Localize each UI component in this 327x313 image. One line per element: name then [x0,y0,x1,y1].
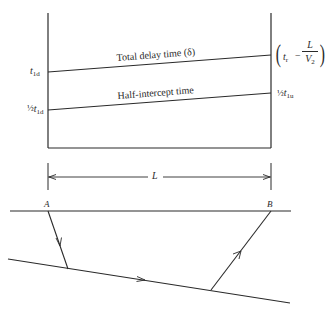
open-paren: ( [276,41,281,67]
minus-sign: − [295,51,301,61]
point-b-label: B [267,200,273,209]
close-paren: ) [320,41,325,67]
left-top-label: t1d [30,66,40,78]
tr-term: tr [283,52,288,64]
point-a-label: A [44,200,50,209]
downgoing-ray [48,211,68,269]
left-bottom-label: ½t1d [27,104,44,116]
l-over-v2-fraction: L V2 [302,39,318,66]
right-bottom-label: ½t1u [277,88,294,100]
dimension-label: L [152,171,158,181]
upgoing-ray [211,211,271,290]
refractor-interface-line [8,259,290,303]
